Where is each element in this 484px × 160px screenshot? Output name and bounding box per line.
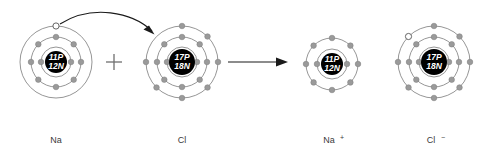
label-sodium-ion: Na + — [323, 134, 344, 146]
sodium-electron — [53, 84, 59, 90]
chloride-ion-electron — [446, 59, 452, 65]
chlorine-electron — [179, 34, 185, 40]
sodium-electron — [71, 42, 77, 48]
label-sodium-ion-charge: + — [340, 134, 344, 141]
ion-chloride-anion: 17P 18N — [395, 23, 473, 101]
chloride-ion-electron — [406, 59, 412, 65]
chlorine-electron — [162, 42, 168, 48]
atom-chlorine: 17P 18N — [143, 23, 221, 101]
chloride-ion-electron — [431, 95, 437, 101]
sodium-electron — [68, 59, 74, 65]
chlorine-electron — [179, 84, 185, 90]
sodium-electron — [78, 59, 84, 65]
chlorine-electron — [164, 59, 170, 65]
chloride-ion-electron — [449, 77, 455, 83]
sodium-ion-electron — [348, 80, 354, 86]
chlorine-electron — [204, 59, 210, 65]
chlorine-electron — [162, 77, 168, 83]
chloride-ion-electron — [414, 42, 420, 48]
sodium-ion-electron — [329, 87, 335, 93]
chlorine-electron — [205, 34, 211, 40]
chlorine-nucleus-neutrons: 18N — [174, 61, 190, 71]
sodium-electron — [36, 77, 42, 83]
sodium-ion-electron — [303, 61, 309, 67]
sodium-electron — [71, 77, 77, 83]
label-sodium: Na — [50, 135, 62, 145]
ion-sodium-cation: 11P 12N — [303, 35, 361, 93]
sodium-ion-electron — [311, 80, 317, 86]
sodium-electron — [53, 34, 59, 40]
ionic-bond-diagram: 11P 12N — [0, 0, 484, 160]
label-chloride-ion-charge: − — [441, 134, 445, 141]
diagram-canvas: 11P 12N — [0, 0, 484, 160]
chloride-ion-electron — [406, 85, 412, 91]
sodium-nucleus-neutrons: 12N — [48, 61, 64, 71]
chlorine-electron — [205, 85, 211, 91]
sodium-ion-electron — [311, 43, 317, 49]
sodium-electron — [28, 59, 34, 65]
chlorine-electron — [154, 85, 160, 91]
chloride-ion-electron — [456, 59, 462, 65]
sodium-ion-electron — [344, 61, 350, 67]
chlorine-electron — [197, 77, 203, 83]
plus-sign-icon — [106, 54, 122, 70]
chloride-ion-electron — [467, 59, 473, 65]
atom-sodium: 11P 12N — [20, 23, 92, 98]
chlorine-electron — [194, 59, 200, 65]
chloride-ion-electron — [431, 34, 437, 40]
label-chlorine: Cl — [178, 135, 187, 145]
chloride-ion-nucleus-neutrons: 18N — [426, 61, 442, 71]
sodium-electron — [36, 42, 42, 48]
sodium-ion-nucleus-neutrons: 12N — [324, 63, 340, 73]
chlorine-electron — [215, 59, 221, 65]
label-sodium-ion-base: Na — [323, 135, 335, 145]
chloride-ion-electron — [416, 59, 422, 65]
sodium-ion-electron — [314, 61, 320, 67]
sodium-ion-electron — [348, 43, 354, 49]
chlorine-electron — [143, 59, 149, 65]
label-chloride-ion-base: Cl — [427, 135, 436, 145]
chlorine-electron — [179, 23, 185, 29]
chloride-ion-electron — [395, 59, 401, 65]
chloride-ion-electron — [414, 77, 420, 83]
chlorine-electron — [179, 95, 185, 101]
chloride-ion-transferred-electron-highlight — [405, 33, 411, 39]
label-chloride-ion: Cl − — [427, 134, 445, 146]
chlorine-electron — [197, 42, 203, 48]
chloride-ion-electron — [457, 34, 463, 40]
chloride-ion-electron — [431, 23, 437, 29]
reaction-arrow — [228, 58, 288, 67]
sodium-electron — [38, 59, 44, 65]
chloride-ion-electron — [457, 85, 463, 91]
chloride-ion-electron — [431, 84, 437, 90]
sodium-ion-electron — [355, 61, 361, 67]
chlorine-electron — [154, 59, 160, 65]
sodium-valence-electron-highlight — [53, 23, 59, 29]
sodium-ion-electron — [329, 35, 335, 41]
chloride-ion-electron — [449, 42, 455, 48]
